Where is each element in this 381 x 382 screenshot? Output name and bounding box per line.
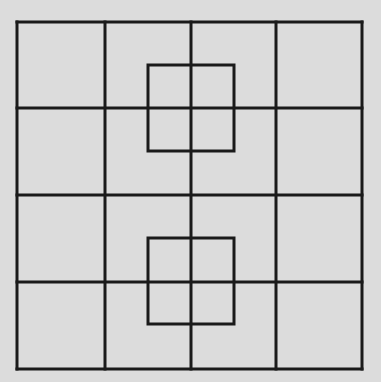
square-puzzle-diagram bbox=[0, 0, 381, 382]
